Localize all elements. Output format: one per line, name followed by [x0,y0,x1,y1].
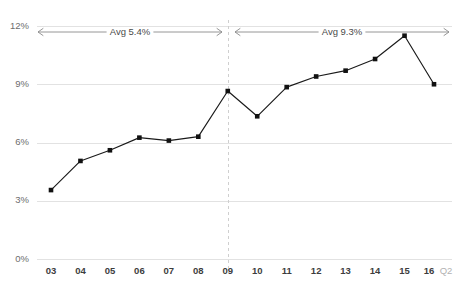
y-axis-tick-label: 3% [15,194,29,205]
data-point-marker [402,33,407,38]
annotation-label-avg-left: Avg 5.4% [110,26,151,37]
x-axis-tick-label: 11 [282,265,293,276]
x-axis-tick-label: 06 [134,265,145,276]
data-point-marker [196,134,201,139]
y-axis-tick-label: 12% [10,20,30,31]
data-point-marker [284,85,289,90]
data-point-marker [373,57,378,62]
x-axis-tick-label: 03 [46,265,57,276]
data-point-marker [78,159,83,164]
x-axis-tick-label: 16 [424,265,435,276]
x-axis-tick-label: 13 [340,265,351,276]
x-axis-tick-label: 07 [164,265,175,276]
x-axis-tick-label: 04 [75,265,86,276]
chart-canvas: 0%3%6%9%12% Avg 5.4%Avg 9.3% 03040506070… [0,0,464,291]
x-axis-labels: 0304050607080910111213141516Q2 [46,265,453,276]
data-point-marker [225,89,230,94]
x-axis-tick-label: 15 [399,265,410,276]
x-axis-tick-label: 05 [105,265,116,276]
data-point-marker [167,138,172,143]
x-axis-tick-label: 09 [222,265,233,276]
line-chart: 0%3%6%9%12% Avg 5.4%Avg 9.3% 03040506070… [0,0,464,291]
x-axis-tick-label: 12 [311,265,322,276]
data-point-marker [49,188,54,193]
average-annotations: Avg 5.4%Avg 9.3% [38,26,449,37]
data-point-marker [314,74,319,79]
data-point-marker [432,82,437,87]
x-axis-tick-label: 14 [370,265,381,276]
data-point-marker [255,114,260,119]
data-point-marker [343,68,348,73]
x-axis-tick-label: 08 [193,265,204,276]
x-axis-tick-label: 10 [252,265,263,276]
y-axis-tick-label: 6% [15,136,29,147]
data-point-marker [137,135,142,140]
y-axis-tick-label: 0% [15,253,29,264]
x-axis-tick-suffix: Q2 [440,265,453,276]
y-axis-labels: 0%3%6%9%12% [10,20,30,264]
data-point-marker [108,148,113,153]
y-axis-tick-label: 9% [15,78,29,89]
gridlines [37,27,452,260]
annotation-label-avg-right: Avg 9.3% [322,26,363,37]
